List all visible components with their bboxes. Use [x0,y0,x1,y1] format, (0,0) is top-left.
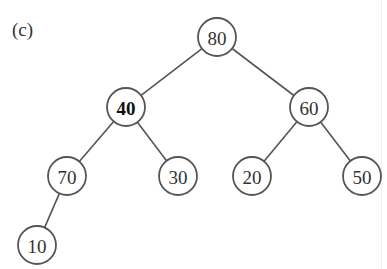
tree-node-40: 40 [107,88,145,126]
edges [45,49,351,228]
edge-40-70 [79,121,113,161]
node-value: 10 [28,236,47,257]
tree-node-10: 10 [18,226,56,264]
node-value: 50 [353,167,372,188]
edge-60-50 [321,122,351,161]
figure-label: (c) [12,19,33,41]
node-value: 40 [117,98,136,119]
tree-node-20: 20 [233,157,271,195]
edge-60-20 [264,122,297,162]
tree-node-80: 80 [198,18,236,56]
edge-70-10 [45,193,60,227]
edge-80-40 [141,49,202,96]
tree-svg: (c) 8040607030205010 [0,0,387,269]
node-value: 70 [58,167,77,188]
edge-80-60 [232,49,294,96]
tree-node-70: 70 [48,157,86,195]
node-value: 80 [208,28,227,49]
tree-node-30: 30 [159,157,197,195]
node-value: 60 [300,98,319,119]
nodes: 8040607030205010 [18,18,381,264]
tree-diagram: (c) 8040607030205010 [0,0,387,269]
node-value: 30 [169,167,188,188]
edge-40-30 [137,122,166,161]
node-value: 20 [243,167,262,188]
tree-node-50: 50 [343,157,381,195]
tree-node-60: 60 [290,88,328,126]
